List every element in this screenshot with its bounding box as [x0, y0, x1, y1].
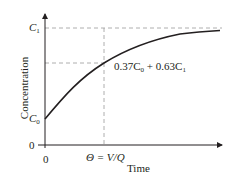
- concentration-curve: [45, 31, 220, 120]
- y-zero-label: 0: [29, 140, 35, 151]
- annotation-label: 0.37C0 + 0.63C1: [114, 61, 186, 74]
- theta-label: Θ = V/Q: [86, 152, 125, 163]
- x-zero-label: 0: [43, 154, 49, 165]
- c0-tick-label: C0: [29, 113, 40, 126]
- x-axis-label: Time: [127, 163, 150, 174]
- c1-tick-label: C1: [29, 22, 40, 35]
